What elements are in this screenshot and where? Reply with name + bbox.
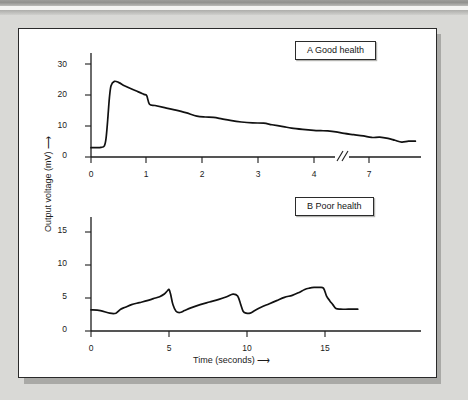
y-tick-label-a-30: 30 — [47, 59, 67, 69]
scan-artifact-band-bottom — [0, 10, 468, 15]
y-axis-title-text: Output voltage (mV) — [43, 151, 53, 232]
y-tick-label-b-15: 15 — [47, 225, 67, 235]
chart-a: A Good health 30 20 10 0 0 1 2 3 4 7 — [73, 47, 425, 187]
chart-a-plot-area — [73, 47, 425, 187]
x-tick-label-a-7: 7 — [361, 169, 377, 179]
chart-a-axis-break-icon — [335, 151, 349, 161]
y-tick-label-b-10: 10 — [47, 258, 67, 268]
x-tick-label-a-3: 3 — [250, 169, 266, 179]
x-axis-title-text: Time (seconds) — [193, 355, 255, 365]
chart-b-series-line — [91, 287, 358, 313]
x-tick-label-a-0: 0 — [83, 169, 99, 179]
legend-chart-a: A Good health — [295, 41, 376, 60]
y-tick-label-a-20: 20 — [47, 89, 67, 99]
y-tick-label-a-0: 0 — [47, 150, 67, 160]
x-tick-label-b-10: 10 — [239, 343, 255, 353]
legend-chart-a-label: A Good health — [307, 45, 364, 55]
x-axis-title: Time (seconds) ⟶ — [193, 355, 270, 365]
chart-b-plot-area — [73, 201, 425, 351]
legend-chart-b: B Poor health — [295, 197, 374, 216]
x-tick-label-a-1: 1 — [138, 169, 154, 179]
legend-chart-b-label: B Poor health — [307, 201, 362, 211]
x-axis-arrow-icon: ⟶ — [257, 355, 270, 365]
y-axis-title: Output voltage (mV) ⟶ — [43, 109, 53, 259]
x-tick-label-a-2: 2 — [194, 169, 210, 179]
y-tick-label-a-10: 10 — [47, 120, 67, 130]
x-tick-label-b-15: 15 — [317, 343, 333, 353]
x-tick-label-b-5: 5 — [161, 343, 177, 353]
y-axis-arrow-icon: ⟶ — [43, 136, 53, 149]
y-tick-label-b-5: 5 — [47, 291, 67, 301]
figure-panel: Output voltage (mV) ⟶ A Good health 30 2… — [18, 28, 437, 378]
x-tick-label-b-0: 0 — [83, 343, 99, 353]
chart-b: B Poor health 15 10 5 0 0 5 10 15 Time (… — [73, 201, 425, 366]
chart-a-series-line — [91, 81, 415, 148]
y-tick-label-b-0: 0 — [47, 324, 67, 334]
x-tick-label-a-4: 4 — [306, 169, 322, 179]
